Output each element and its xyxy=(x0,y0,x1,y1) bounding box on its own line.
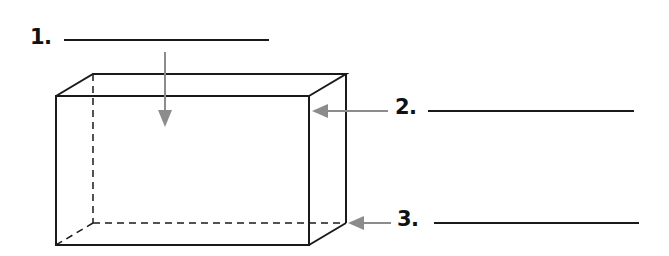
arrow-3 xyxy=(348,216,391,230)
answer-blank-1[interactable] xyxy=(64,39,269,41)
arrow-2 xyxy=(312,104,388,118)
label-3-number: 3. xyxy=(397,209,419,230)
answer-blank-3[interactable] xyxy=(434,222,639,224)
arrow-1 xyxy=(158,52,172,127)
label-2-number: 2. xyxy=(395,97,417,118)
prism-hidden-edges xyxy=(56,74,346,245)
answer-blank-2[interactable] xyxy=(428,110,634,112)
prism-visible-edges xyxy=(56,74,346,245)
label-1-number: 1. xyxy=(30,27,52,48)
